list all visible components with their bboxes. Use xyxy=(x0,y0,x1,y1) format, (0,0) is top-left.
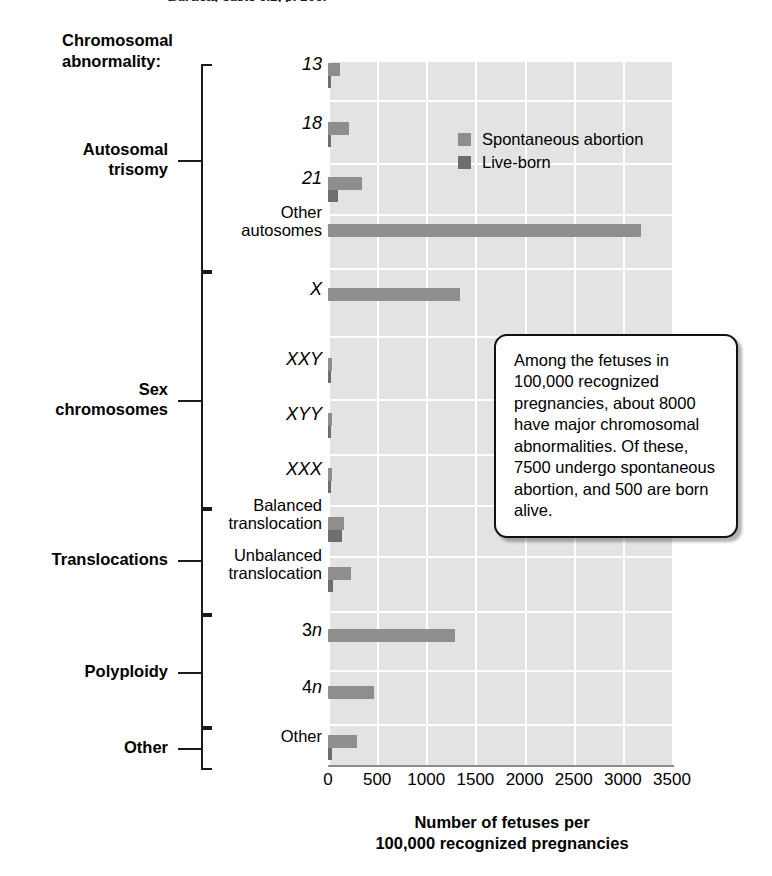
chart-gridline-horizontal xyxy=(328,611,672,613)
group-label-polyploidy: Polyploidy xyxy=(38,662,168,682)
group-bracket-tick xyxy=(178,400,201,402)
page-title: Chromosomalabnormality: xyxy=(62,30,212,72)
bar-spontaneous-abortion xyxy=(328,358,332,371)
x-axis-line xyxy=(328,765,674,767)
bar-spontaneous-abortion xyxy=(328,288,460,301)
category-label: 3n xyxy=(194,621,322,641)
chart-gridline-horizontal xyxy=(328,724,672,726)
bar-spontaneous-abortion xyxy=(328,468,332,481)
x-axis-title-line1: Number of fetuses per xyxy=(330,812,674,833)
legend-label: Live-born xyxy=(482,153,551,172)
chart-gridline-horizontal xyxy=(328,670,672,672)
bar-live-born xyxy=(328,426,331,438)
callout-note: Among the fetuses in 100,000 recognized … xyxy=(494,334,738,538)
bar-spontaneous-abortion xyxy=(328,517,344,530)
category-label: XYY xyxy=(194,405,322,425)
bar-live-born xyxy=(328,530,342,542)
source-citation: Bartlett, Table 8.2, p. 208. xyxy=(168,0,468,2)
chart-legend: Spontaneous abortion Live-born xyxy=(458,128,643,174)
category-label: XXY xyxy=(194,350,322,370)
category-label: XXX xyxy=(194,460,322,480)
bar-spontaneous-abortion xyxy=(328,177,362,190)
bar-live-born xyxy=(328,481,331,493)
chart-gridline-vertical xyxy=(426,62,428,765)
bar-spontaneous-abortion xyxy=(328,735,357,748)
bar-live-born xyxy=(328,190,338,202)
category-label: 4n xyxy=(194,678,322,698)
bar-live-born xyxy=(328,580,333,592)
category-label: X xyxy=(194,280,322,300)
group-bracket-tick xyxy=(178,672,201,674)
chart-gridline-vertical xyxy=(377,62,379,765)
group-bracket xyxy=(201,64,212,272)
x-axis-title: Number of fetuses per 100,000 recognized… xyxy=(330,812,674,855)
bar-spontaneous-abortion xyxy=(328,629,455,642)
chart-gridline-horizontal xyxy=(328,100,672,102)
group-label-autosomal: Autosomaltrisomy xyxy=(38,140,168,180)
category-label: 21 xyxy=(194,169,322,189)
bar-spontaneous-abortion xyxy=(328,567,351,580)
category-label: Balancedtranslocation xyxy=(194,496,322,532)
x-axis-title-line2: 100,000 recognized pregnancies xyxy=(330,833,674,854)
bar-spontaneous-abortion xyxy=(328,224,641,237)
group-label-other: Other xyxy=(38,738,168,758)
bar-live-born xyxy=(328,76,331,88)
bar-live-born xyxy=(328,371,331,383)
group-bracket-tick xyxy=(178,160,201,162)
legend-swatch-icon xyxy=(458,133,471,146)
group-label-sex: Sexchromosomes xyxy=(38,380,168,420)
bar-spontaneous-abortion xyxy=(328,63,340,76)
legend-swatch-icon xyxy=(458,156,471,169)
bar-spontaneous-abortion xyxy=(328,122,349,135)
category-label: 13 xyxy=(194,55,322,75)
chart-gridline-horizontal xyxy=(328,214,672,216)
legend-label: Spontaneous abortion xyxy=(482,130,643,149)
bar-spontaneous-abortion xyxy=(328,686,374,699)
bar-live-born xyxy=(328,135,331,147)
legend-item-spontaneous-abortion: Spontaneous abortion xyxy=(458,128,643,151)
category-label: 18 xyxy=(194,114,322,134)
category-label: Otherautosomes xyxy=(194,203,322,239)
category-label: Other xyxy=(194,727,322,745)
bar-live-born xyxy=(328,748,332,760)
bar-spontaneous-abortion xyxy=(328,413,332,426)
chart-gridline-horizontal xyxy=(328,556,672,558)
group-label-translocations: Translocations xyxy=(38,550,168,570)
chart-gridline-horizontal xyxy=(328,268,672,270)
category-label: Unbalancedtranslocation xyxy=(194,546,322,582)
x-tick-label: 3500 xyxy=(642,770,702,790)
legend-item-live-born: Live-born xyxy=(458,151,643,174)
group-bracket-tick xyxy=(178,748,201,750)
